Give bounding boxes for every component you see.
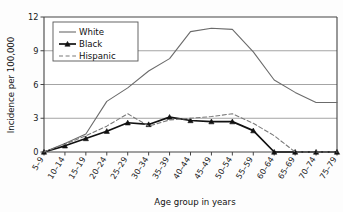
x-tick-label: 75–79 — [318, 155, 339, 180]
y-axis-title: Incidence per 100,000 — [6, 37, 16, 134]
x-axis-title: Age group in years — [154, 197, 236, 207]
y-tick-label: 9 — [33, 46, 38, 56]
x-tick-label: 20–24 — [88, 155, 109, 180]
x-tick-label: 25–29 — [109, 155, 130, 180]
x-tick-label: 15–19 — [67, 155, 88, 180]
legend-label-black: Black — [79, 39, 102, 49]
x-tick-label: 45–49 — [193, 155, 214, 180]
x-tick-label: 5–9 — [31, 155, 46, 172]
x-tick-label: 35–39 — [151, 155, 172, 180]
x-tick-label: 50–54 — [214, 155, 235, 180]
y-tick-label: 6 — [33, 80, 38, 90]
x-tick-label: 65–69 — [276, 155, 297, 180]
x-tick-label: 40–44 — [172, 155, 193, 180]
x-tick-label: 70–74 — [297, 155, 318, 180]
x-tick-label: 30–34 — [130, 155, 151, 180]
y-axis-ticks: 036912 — [28, 12, 44, 157]
legend-label-hispanic: Hispanic — [79, 51, 116, 61]
x-axis-tick-labels: 5–910–1415–1920–2425–2930–3435–3940–4445… — [31, 155, 339, 180]
y-tick-label: 3 — [33, 113, 38, 123]
x-tick-label: 55–59 — [234, 155, 255, 180]
x-tick-label: 10–14 — [46, 155, 67, 180]
chart-container: 036912 5–910–1415–1920–2425–2930–3435–39… — [0, 0, 343, 212]
x-tick-label: 60–64 — [255, 155, 276, 180]
y-tick-label: 12 — [28, 12, 38, 22]
line-chart: 036912 5–910–1415–1920–2425–2930–3435–39… — [0, 0, 343, 212]
legend-label-white: White — [79, 27, 104, 37]
